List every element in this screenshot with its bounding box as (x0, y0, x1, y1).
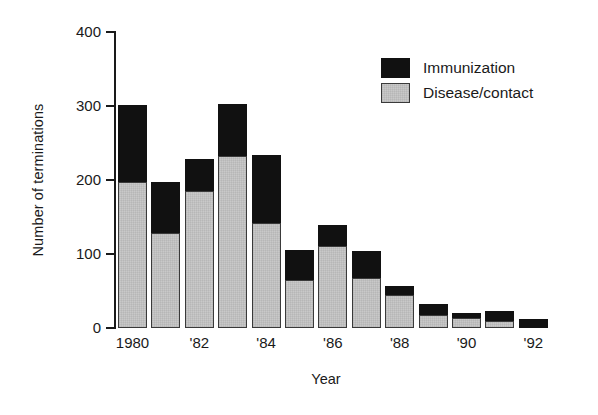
legend-item-disease-contact: Disease/contact (381, 80, 533, 105)
stacked-bar-chart: Number of terminations 400 300 200 100 0… (0, 0, 598, 415)
x-tick-label-1980: 1980 (98, 334, 168, 351)
bar-segment-immunization (419, 304, 448, 316)
x-tick-label-1992: '92 (498, 334, 568, 351)
y-tick-label: 0 (53, 320, 101, 335)
bar-segment-disease-contact (285, 280, 314, 328)
bar-1991 (485, 311, 514, 328)
bar-segment-immunization (318, 225, 347, 246)
y-tick-label: 100 (53, 246, 101, 261)
bar-1989 (419, 304, 448, 329)
legend-item-immunization: Immunization (381, 55, 533, 80)
legend-swatch-disease-contact-icon (381, 83, 410, 103)
bar-1983 (218, 104, 247, 328)
bar-segment-immunization (118, 105, 147, 183)
bar-1982 (185, 159, 214, 328)
x-tick-label-1984: '84 (231, 334, 301, 351)
bar-segment-disease-contact (118, 182, 147, 328)
y-axis-title: Number of terminations (30, 50, 46, 310)
y-tick-mark (106, 253, 115, 255)
y-tick-mark (106, 31, 115, 33)
bar-segment-immunization (185, 159, 214, 192)
bar-segment-disease-contact (385, 295, 414, 328)
y-tick-label: 200 (53, 172, 101, 187)
bar-segment-disease-contact (419, 315, 448, 328)
x-tick-label-1986: '86 (298, 334, 368, 351)
y-tick-mark (106, 105, 115, 107)
y-tick-300: 300 (48, 105, 115, 107)
legend-swatch-immunization-icon (381, 58, 410, 78)
bar-segment-disease-contact (218, 156, 247, 328)
bar-segment-disease-contact (318, 246, 347, 328)
y-tick-mark (106, 327, 115, 329)
x-axis-title: Year (116, 371, 536, 387)
legend-label: Disease/contact (423, 85, 533, 101)
bar-1984 (252, 155, 281, 328)
bar-segment-disease-contact (485, 321, 514, 328)
bar-segment-immunization (252, 155, 281, 223)
bar-segment-disease-contact (151, 233, 180, 328)
bar-segment-disease-contact (452, 318, 481, 328)
bar-segment-immunization (385, 286, 414, 294)
chart-legend: Immunization Disease/contact (381, 55, 533, 105)
bar-1986 (318, 225, 347, 328)
bar-segment-disease-contact (252, 223, 281, 328)
bar-segment-immunization (485, 311, 514, 321)
bar-segment-immunization (151, 182, 180, 233)
legend-label: Immunization (423, 60, 515, 76)
bar-1987 (352, 251, 381, 328)
y-tick-100: 100 (48, 253, 115, 255)
bar-1981 (151, 182, 180, 328)
bar-1985 (285, 250, 314, 328)
bar-segment-immunization (519, 319, 548, 328)
y-tick-0: 0 (48, 327, 115, 329)
y-tick-mark (106, 179, 115, 181)
bar-segment-disease-contact (352, 278, 381, 328)
y-tick-400: 400 (48, 31, 115, 33)
y-tick-200: 200 (48, 179, 115, 181)
bar-segment-immunization (285, 250, 314, 280)
bar-1992 (519, 319, 548, 328)
x-tick-label-1990: '90 (432, 334, 502, 351)
bar-1988 (385, 286, 414, 328)
y-tick-label: 300 (53, 98, 101, 113)
x-tick-label-1982: '82 (164, 334, 234, 351)
bar-1980 (118, 105, 147, 328)
bar-segment-disease-contact (185, 191, 214, 328)
bar-1990 (452, 313, 481, 328)
x-tick-label-1988: '88 (365, 334, 435, 351)
bar-segment-immunization (218, 104, 247, 156)
y-tick-label: 400 (53, 24, 101, 39)
bar-segment-immunization (452, 313, 481, 318)
bar-segment-immunization (352, 251, 381, 278)
